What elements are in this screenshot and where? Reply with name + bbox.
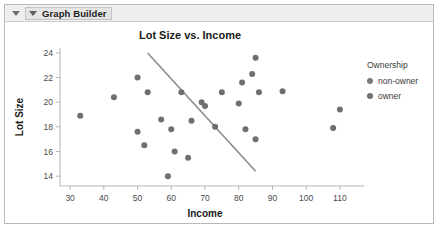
data-point[interactable] bbox=[135, 75, 141, 81]
data-point[interactable] bbox=[135, 129, 141, 135]
data-point[interactable] bbox=[219, 89, 225, 95]
data-point[interactable] bbox=[141, 142, 147, 148]
legend-marker-circle-icon bbox=[367, 78, 373, 84]
data-point[interactable] bbox=[337, 107, 343, 113]
y-tick-label: 24 bbox=[44, 48, 54, 58]
data-point[interactable] bbox=[242, 126, 248, 132]
data-point[interactable] bbox=[172, 149, 178, 155]
legend-item-owner[interactable]: owner bbox=[367, 91, 440, 101]
x-axis-title: Income bbox=[187, 208, 222, 219]
x-tick-label: 80 bbox=[234, 193, 244, 203]
data-point[interactable] bbox=[165, 173, 171, 179]
data-point[interactable] bbox=[158, 116, 164, 122]
x-tick-label: 60 bbox=[167, 193, 177, 203]
disclosure-triangle-down-icon[interactable] bbox=[12, 11, 20, 16]
data-point[interactable] bbox=[253, 55, 259, 61]
data-point[interactable] bbox=[253, 136, 259, 142]
x-tick-label: 50 bbox=[133, 193, 143, 203]
panel-titlebar: Graph Builder bbox=[5, 5, 433, 22]
data-point[interactable] bbox=[280, 88, 286, 94]
y-tick-label: 22 bbox=[44, 73, 54, 83]
chart-region: Lot Size vs. Income 14161820222430405060… bbox=[5, 22, 433, 224]
data-point[interactable] bbox=[330, 125, 336, 131]
x-tick-label: 90 bbox=[268, 193, 278, 203]
x-tick-label: 70 bbox=[200, 193, 210, 203]
data-point[interactable] bbox=[145, 89, 151, 95]
legend-label: non-owner bbox=[378, 76, 418, 86]
data-point[interactable] bbox=[212, 124, 218, 130]
data-point[interactable] bbox=[189, 118, 195, 124]
x-tick-label: 110 bbox=[333, 193, 347, 203]
legend-item-non-owner[interactable]: non-owner bbox=[367, 76, 440, 86]
data-point[interactable] bbox=[202, 103, 208, 109]
y-axis-title: Lot Size bbox=[14, 97, 25, 136]
legend: Ownership non-owner owner bbox=[367, 60, 440, 106]
data-point[interactable] bbox=[111, 94, 117, 100]
legend-label: owner bbox=[378, 91, 401, 101]
legend-marker-circle-icon bbox=[367, 93, 373, 99]
data-point[interactable] bbox=[256, 89, 262, 95]
trend-line bbox=[148, 53, 256, 171]
x-tick-label: 30 bbox=[65, 193, 75, 203]
y-tick-label: 14 bbox=[44, 171, 54, 181]
outline-triangle-down-icon[interactable] bbox=[29, 11, 37, 16]
data-point[interactable] bbox=[185, 155, 191, 161]
data-point[interactable] bbox=[168, 126, 174, 132]
graph-builder-window: Graph Builder Lot Size vs. Income 141618… bbox=[4, 4, 434, 224]
y-tick-label: 16 bbox=[44, 147, 54, 157]
data-point[interactable] bbox=[239, 80, 245, 86]
data-point[interactable] bbox=[249, 71, 255, 77]
x-tick-label: 40 bbox=[99, 193, 109, 203]
legend-title: Ownership bbox=[367, 60, 440, 70]
panel-title: Graph Builder bbox=[42, 8, 107, 19]
x-tick-label: 100 bbox=[299, 193, 313, 203]
data-point[interactable] bbox=[178, 89, 184, 95]
data-point[interactable] bbox=[77, 113, 83, 119]
outline-node-toggle[interactable]: Graph Builder bbox=[25, 7, 112, 20]
y-tick-label: 18 bbox=[44, 122, 54, 132]
data-point[interactable] bbox=[236, 100, 242, 106]
scatter-plot: 14161820222430405060708090100110IncomeLo… bbox=[5, 22, 435, 224]
y-tick-label: 20 bbox=[44, 97, 54, 107]
